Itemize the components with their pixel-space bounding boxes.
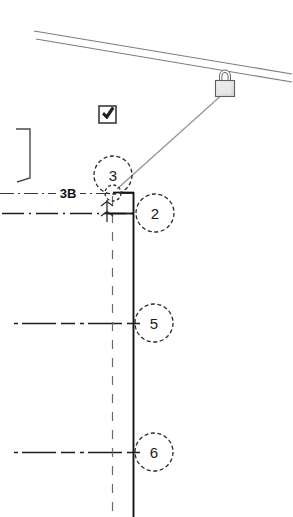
centerline-tag: 3B	[60, 186, 77, 201]
drawing-canvas: 3 2 5 6 3B	[0, 0, 293, 517]
label-layer: 3B	[0, 0, 293, 517]
